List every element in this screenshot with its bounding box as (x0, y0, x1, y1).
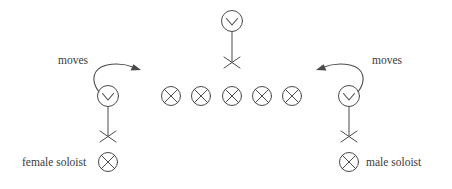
legend-female-soloist: female soloist (22, 153, 118, 172)
cross-icon (255, 89, 268, 102)
diagram-canvas: moves moves female soloist male soloist (0, 0, 452, 189)
dancer-face-chevron-icon (103, 94, 114, 101)
cross-icon (285, 89, 298, 102)
chorus-token (253, 87, 272, 106)
male-soloist-figure (339, 86, 360, 143)
cross-icon (194, 89, 207, 102)
dancer-face-chevron-icon (227, 19, 238, 26)
moves-label-left: moves (58, 54, 89, 66)
dancer-head-icon (339, 86, 360, 107)
arrowhead-right-icon (131, 64, 142, 70)
legend-male-soloist-label: male soloist (366, 156, 422, 168)
dancer-head-icon (222, 11, 243, 32)
cross-icon (342, 155, 355, 168)
legend-female-soloist-label: female soloist (22, 156, 87, 168)
arrowhead-left-icon (316, 64, 327, 70)
chorus-token (162, 87, 181, 106)
cross-icon (101, 155, 114, 168)
stage-formation-diagram: moves moves female soloist male soloist (0, 0, 452, 189)
legend-male-soloist: male soloist (340, 153, 423, 172)
dancer-head-icon (98, 86, 119, 107)
chorus-row (162, 87, 302, 106)
chorus-token (283, 87, 302, 106)
dancer-face-chevron-icon (344, 94, 355, 101)
cross-icon (225, 89, 238, 102)
chorus-token (192, 87, 211, 106)
cross-icon (164, 89, 177, 102)
top-chorus-dancer (222, 11, 243, 69)
chorus-token (223, 87, 242, 106)
female-soloist-figure (98, 86, 119, 143)
moves-label-right: moves (372, 54, 403, 66)
